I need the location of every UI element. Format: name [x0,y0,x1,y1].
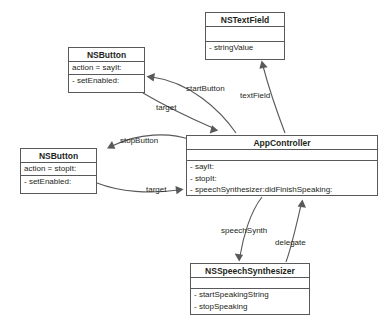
class-attributes-nstextfield [206,27,284,42]
edge-target-start [143,93,218,133]
class-operations-appcontroller: - sayIt: - stopIt: - speechSynthesizer:d… [187,161,377,196]
class-attributes-nsspeechsynthesizer [191,278,309,289]
operation-item: - speechSynthesizer:didFinishSpeaking: [190,184,374,196]
edge-label-textfield: textField [240,91,270,101]
edge-target-stop [97,183,184,194]
class-title-nsbutton-stop: NSButton [21,149,96,163]
edge-label-speechsynth: speechSynth [221,226,267,236]
edge-label-startbutton: startButton [186,84,225,94]
class-title-nstextfield: NSTextField [206,13,284,27]
class-attributes-nsbutton-stop: action = stopIt: [21,163,96,176]
class-operations-nsbutton-start: - setEnabled: [69,75,144,87]
class-attributes-appcontroller [187,150,377,161]
operation-item: - stopSpeaking [194,301,306,313]
diagram-canvas: NSTextField - stringValue NSButton actio… [0,0,392,335]
operation-item: - setEnabled: [72,75,141,87]
class-operations-nsspeechsynthesizer: - startSpeakingString - stopSpeaking [191,289,309,312]
operation-item: - setEnabled: [24,176,93,188]
operation-item: - stringValue [209,42,281,54]
class-box-nstextfield[interactable]: NSTextField - stringValue [205,12,285,60]
class-operations-nsbutton-stop: - setEnabled: [21,176,96,188]
class-title-nsspeechsynthesizer: NSSpeechSynthesizer [191,264,309,278]
class-box-nsbutton-start[interactable]: NSButton action = sayIt: - setEnabled: [68,47,145,93]
operation-item: - sayIt: [190,161,374,173]
edge-label-delegate: delegate [275,238,306,248]
edge-delegate [286,200,306,262]
attribute-item: action = stopIt: [24,163,93,175]
class-title-appcontroller: AppController [187,136,377,150]
edge-label-target-start: target [156,103,176,113]
class-box-appcontroller[interactable]: AppController - sayIt: - stopIt: - speec… [186,135,378,196]
class-box-nsbutton-stop[interactable]: NSButton action = stopIt: - setEnabled: [20,148,97,194]
attribute-item: action = sayIt: [72,62,141,74]
operation-item: - startSpeakingString [194,289,306,301]
class-title-nsbutton-start: NSButton [69,48,144,62]
class-operations-nstextfield: - stringValue [206,42,284,54]
edge-label-target-stop: target [146,185,166,195]
class-attributes-nsbutton-start: action = sayIt: [69,62,144,75]
operation-item: - stopIt: [190,173,374,185]
edge-label-stopbutton: stopButton [120,136,158,146]
class-box-nsspeechsynthesizer[interactable]: NSSpeechSynthesizer - startSpeakingStrin… [190,263,310,315]
